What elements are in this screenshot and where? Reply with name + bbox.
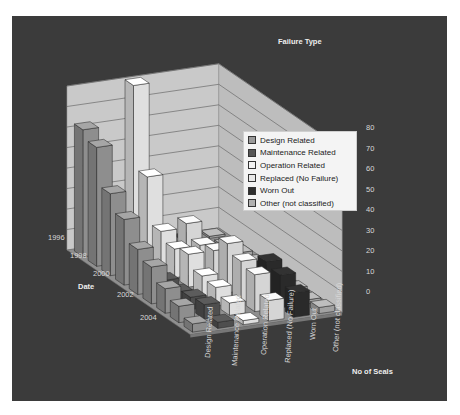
- category-tick-label: Operation Related: [259, 294, 271, 355]
- legend-swatch-icon: [248, 136, 256, 144]
- legend-swatch-icon: [248, 161, 256, 169]
- legend-swatch-icon: [248, 199, 256, 207]
- legend-item-other-not-classified: Other (not classified): [248, 197, 352, 210]
- date-tick-label: 1998: [70, 251, 87, 260]
- category-tick-label: Design Related: [203, 306, 215, 358]
- date-tick-label: 1996: [48, 233, 65, 242]
- date-axis-title: Date: [78, 282, 94, 291]
- z-tick-label: 80: [366, 123, 374, 132]
- legend-item-operation-related: Operation Related: [248, 159, 352, 172]
- chart-legend: Design Related Maintenance Related Opera…: [243, 131, 357, 211]
- z-tick-label: 0: [366, 287, 370, 296]
- chart-plot-area: 0102030405060708019961998200020022004Des…: [0, 0, 460, 415]
- z-tick-label: 50: [366, 185, 374, 194]
- z-tick-label: 70: [366, 144, 374, 153]
- legend-swatch-icon: [248, 149, 256, 157]
- legend-swatch-icon: [248, 174, 256, 182]
- date-tick-label: 2002: [117, 290, 134, 299]
- seals-axis-title: No of Seals: [352, 367, 393, 376]
- z-tick-label: 30: [366, 226, 374, 235]
- legend-item-replaced-no-failure: Replaced (No Failure): [248, 172, 352, 185]
- legend-item-worn-out: Worn Out: [248, 184, 352, 197]
- legend-item-design-related: Design Related: [248, 134, 352, 147]
- z-tick-label: 20: [366, 246, 374, 255]
- z-tick-label: 10: [366, 267, 374, 276]
- z-tick-label: 60: [366, 164, 374, 173]
- chart-title: Failure Type: [278, 37, 322, 46]
- legend-item-maintenance-related: Maintenance Related: [248, 147, 352, 160]
- category-tick-label: Worn Out: [308, 307, 319, 340]
- z-tick-label: 40: [366, 205, 374, 214]
- legend-swatch-icon: [248, 187, 256, 195]
- date-tick-label: 2004: [140, 313, 157, 322]
- date-tick-label: 2000: [93, 269, 110, 278]
